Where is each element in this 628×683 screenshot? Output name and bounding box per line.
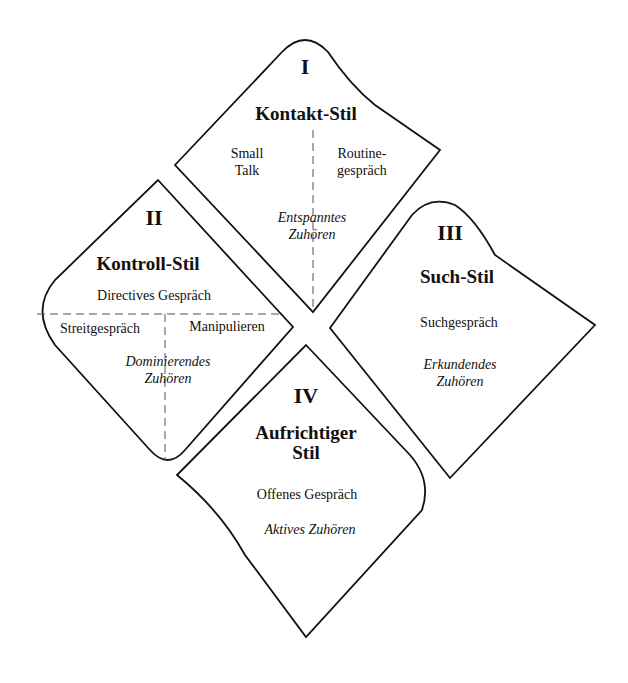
- quadrant-ii-listening-2: Zuhören: [145, 371, 192, 387]
- quadrant-i-item-left-2: Talk: [235, 163, 260, 179]
- quadrant-iii-listening-2: Zuhören: [437, 374, 484, 390]
- quadrant-iv-item: Offenes Gespräch: [257, 487, 357, 503]
- quadrant-ii-top-item: Directives Gespräch: [97, 288, 211, 304]
- quadrant-ii-listening-1: Dominierendes: [125, 354, 210, 370]
- quadrant-iv-numeral: IV: [294, 383, 318, 408]
- quadrant-ii-title: Kontroll-Stil: [96, 253, 199, 275]
- quadrant-i-item-right-2: gespräch: [337, 163, 387, 179]
- quadrant-iv-title-1: Aufrichtiger: [255, 422, 356, 444]
- quadrant-iii-numeral: III: [437, 220, 463, 245]
- quadrant-iv-title-2: Stil: [292, 442, 319, 464]
- quadrant-ii-numeral: II: [145, 205, 162, 230]
- quadrant-iii-listening-1: Erkundendes: [423, 357, 496, 373]
- quadrant-i-title: Kontakt-Stil: [255, 103, 356, 125]
- quadrant-iv-listening: Aktives Zuhören: [265, 522, 356, 538]
- quadrant-i-listening-1: Entspanntes: [278, 210, 346, 226]
- quadrant-iii-title: Such-Stil: [420, 266, 494, 288]
- quadrant-i-item-left-1: Small: [231, 146, 264, 162]
- quadrant-i-listening-2: Zuhören: [289, 227, 336, 243]
- quadrant-iii-item: Suchgespräch: [420, 315, 498, 331]
- quadrant-i-numeral: I: [301, 54, 310, 79]
- quadrant-ii-item-right: Manipulieren: [189, 319, 264, 335]
- quadrant-i-item-right-1: Routine-: [338, 146, 387, 162]
- quadrant-ii-item-left: Streitgespräch: [60, 321, 140, 337]
